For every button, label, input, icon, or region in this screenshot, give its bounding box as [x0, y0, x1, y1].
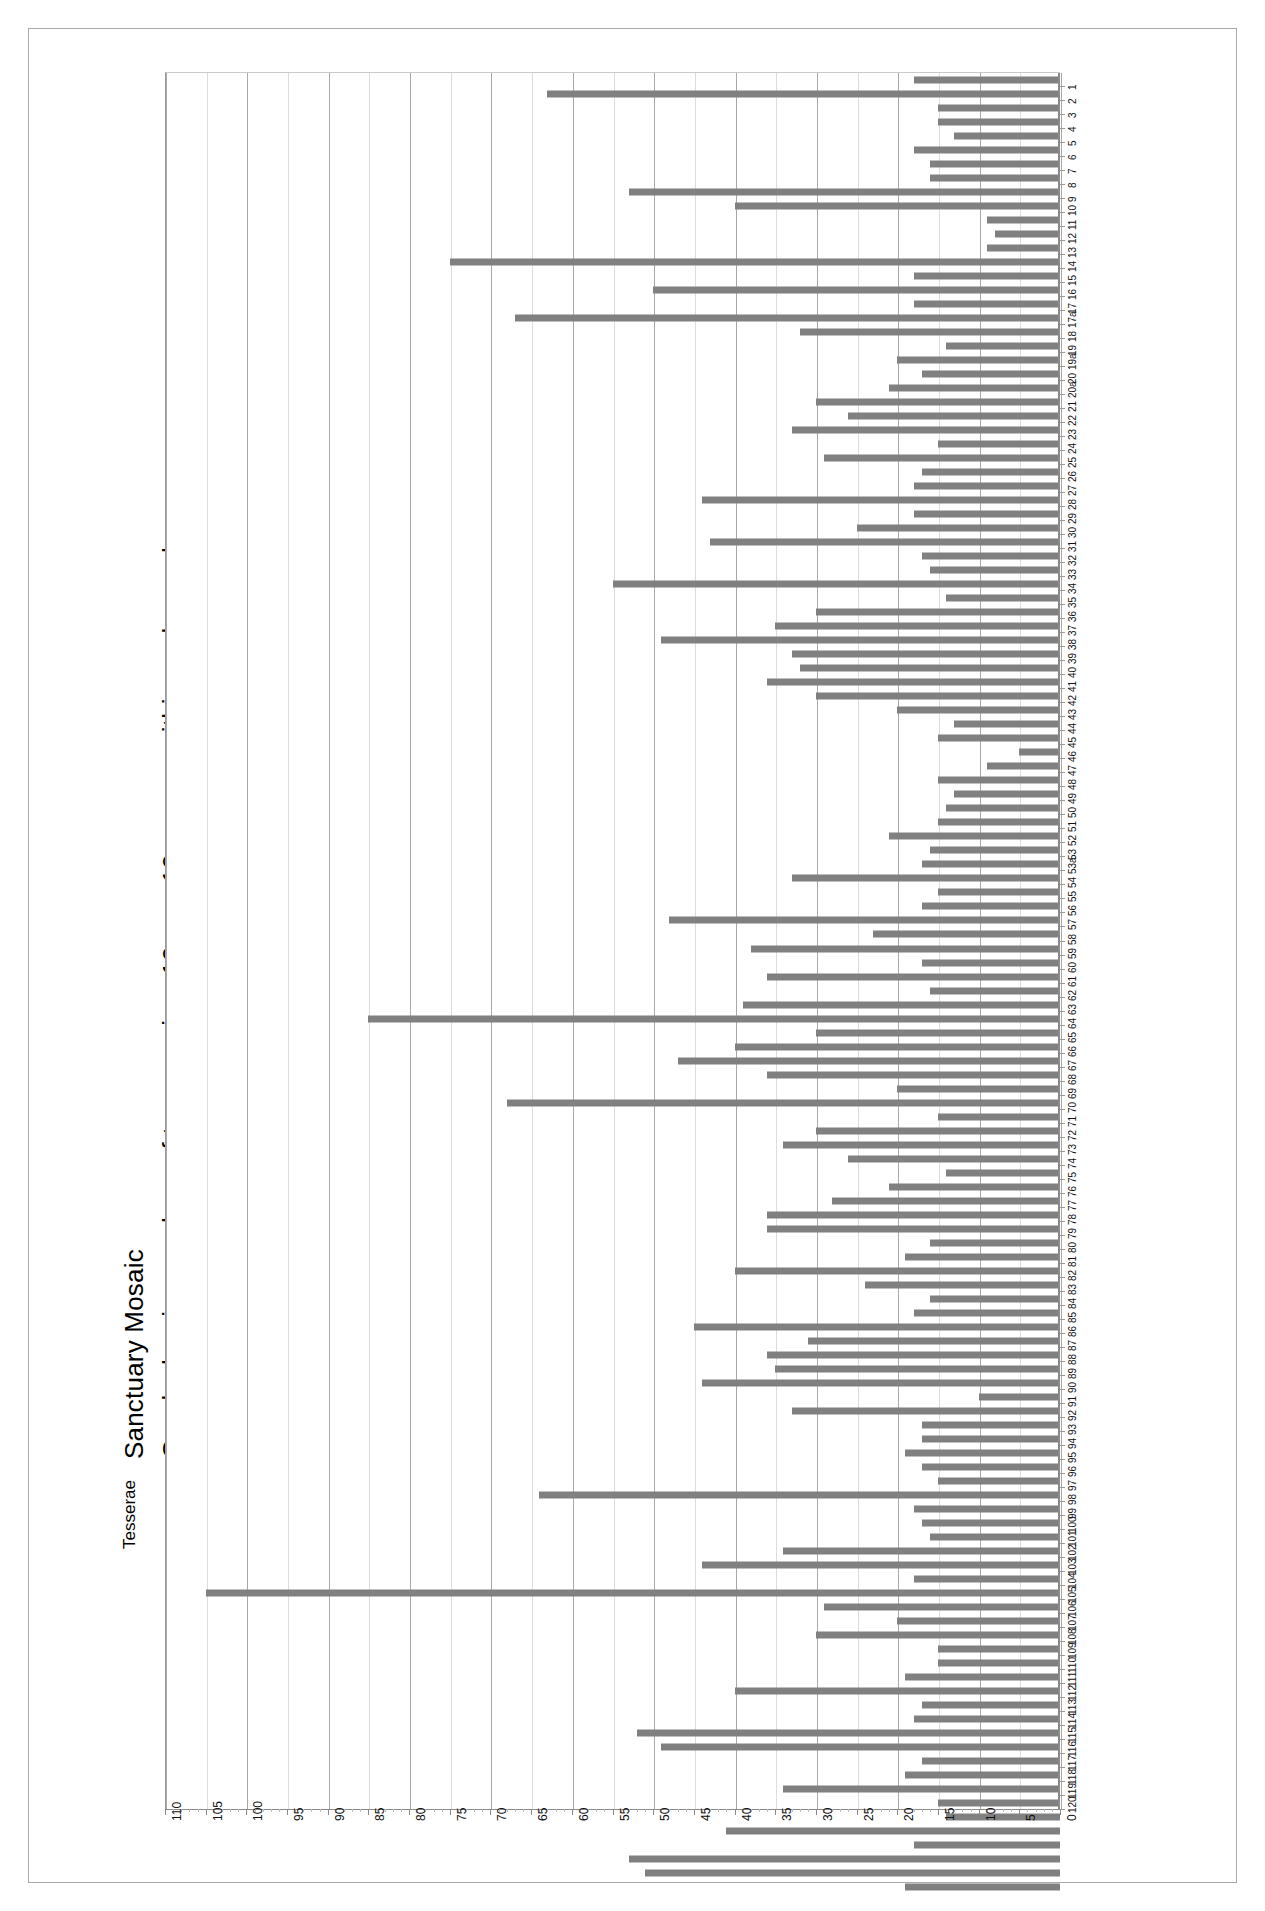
category-axis-tick — [1060, 1151, 1065, 1152]
category-axis-tick — [1060, 86, 1065, 87]
value-axis-minor-tick — [442, 1809, 443, 1812]
bar-row — [166, 633, 1060, 647]
value-axis-minor-tick — [767, 1809, 768, 1812]
value-axis-label: 65 — [536, 1808, 550, 1821]
category-axis-tick — [1060, 1389, 1065, 1390]
category-axis-label: 120 — [1067, 1796, 1078, 1813]
bar — [922, 371, 1060, 378]
bar-row — [166, 871, 1060, 885]
value-axis-tick — [490, 1809, 491, 1815]
category-axis-label: 46 — [1067, 751, 1078, 762]
category-axis-tick — [1060, 1753, 1065, 1754]
bar-row — [166, 297, 1060, 311]
category-axis-label: 23 — [1067, 429, 1078, 440]
bar-row — [166, 1082, 1060, 1096]
category-axis-label: 43 — [1067, 709, 1078, 720]
value-axis-tick — [206, 1809, 207, 1815]
bar-row — [166, 339, 1060, 353]
bar-row — [166, 325, 1060, 339]
value-axis-tick — [979, 1809, 980, 1815]
category-axis-label: 40 — [1067, 667, 1078, 678]
bar — [922, 469, 1060, 476]
bar-row — [166, 549, 1060, 563]
bar — [507, 1099, 1060, 1106]
bar — [905, 1771, 1060, 1778]
bar-row — [166, 1208, 1060, 1222]
bar — [694, 1323, 1060, 1330]
category-axis-tick — [1060, 282, 1065, 283]
bar-row — [166, 1124, 1060, 1138]
category-axis-tick — [1060, 1277, 1065, 1278]
value-axis-tick — [1019, 1809, 1020, 1815]
value-axis-minor-tick — [230, 1809, 231, 1812]
bar — [938, 1477, 1060, 1484]
bar — [767, 679, 1060, 686]
category-axis-tick — [1060, 884, 1065, 885]
category-axis-label: 38 — [1067, 639, 1078, 650]
bar — [922, 1757, 1060, 1764]
bar-row — [166, 1544, 1060, 1558]
value-axis-label: 70 — [495, 1808, 509, 1821]
bar-row — [166, 913, 1060, 927]
bar — [946, 1814, 1060, 1821]
bar-row — [166, 689, 1060, 703]
plot-area — [165, 72, 1060, 1809]
category-axis-tick — [1060, 1347, 1065, 1348]
category-axis-tick — [1060, 1431, 1065, 1432]
category-axis-tick — [1060, 1487, 1065, 1488]
value-axis-minor-tick — [393, 1809, 394, 1812]
bar-row — [166, 619, 1060, 633]
value-axis-minor-tick — [848, 1809, 849, 1812]
bar — [629, 189, 1060, 196]
bar-row — [166, 787, 1060, 801]
bar — [783, 1785, 1060, 1792]
bar — [905, 1253, 1060, 1260]
category-axis-tick — [1060, 1417, 1065, 1418]
bar-row — [166, 1334, 1060, 1348]
bar — [637, 1729, 1060, 1736]
category-axis-tick — [1060, 1767, 1065, 1768]
category-axis-tick — [1060, 716, 1065, 717]
bar-row — [166, 1320, 1060, 1334]
bar — [922, 1463, 1060, 1470]
category-axis-label: 93 — [1067, 1424, 1078, 1435]
bar-row — [166, 241, 1060, 255]
category-axis-tick — [1060, 1529, 1065, 1530]
bar-row — [166, 1600, 1060, 1614]
bar-row — [166, 283, 1060, 297]
category-axis-label: 59 — [1067, 947, 1078, 958]
bar — [735, 203, 1060, 210]
category-axis-label: 25 — [1067, 457, 1078, 468]
category-axis-label: 96 — [1067, 1466, 1078, 1477]
bar-row — [166, 1754, 1060, 1768]
category-axis-label: 6 — [1067, 154, 1078, 160]
value-axis-tick — [246, 1809, 247, 1815]
bar-row — [166, 1306, 1060, 1320]
value-axis-minor-tick — [678, 1809, 679, 1812]
value-axis-minor-tick — [556, 1809, 557, 1812]
category-axis-label: 5 — [1067, 140, 1078, 146]
category-axis-label: 9 — [1067, 197, 1078, 203]
bar — [889, 833, 1060, 840]
value-axis-minor-tick — [808, 1809, 809, 1812]
bar-row — [166, 1222, 1060, 1236]
category-axis-label: 94 — [1067, 1438, 1078, 1449]
bar — [979, 1393, 1060, 1400]
category-axis-tick — [1060, 730, 1065, 731]
value-axis-minor-tick — [360, 1809, 361, 1812]
bar — [938, 1645, 1060, 1652]
category-axis-label: 8 — [1067, 182, 1078, 188]
category-axis-label: 110 — [1067, 1657, 1078, 1673]
category-axis-tick — [1060, 1501, 1065, 1502]
category-axis-tick — [1060, 1669, 1065, 1670]
value-axis-minor-tick — [759, 1809, 760, 1812]
category-axis-label: 35 — [1067, 597, 1078, 608]
category-axis-tick — [1060, 632, 1065, 633]
value-axis-tick — [775, 1809, 776, 1815]
bar — [873, 931, 1060, 938]
category-axis-tick — [1060, 1459, 1065, 1460]
chart-frame: Sanctuary Mosaic Graph showing numbers o… — [28, 28, 1237, 1883]
value-axis-tick — [897, 1809, 898, 1815]
bar-row — [166, 1096, 1060, 1110]
bar — [629, 1856, 1060, 1863]
